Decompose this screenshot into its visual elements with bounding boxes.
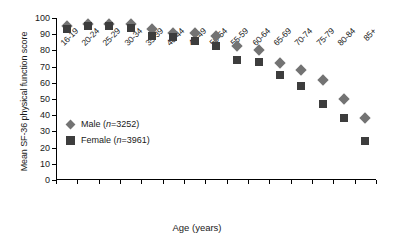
x-tick — [141, 180, 142, 184]
data-point-female — [319, 100, 327, 108]
y-tick — [52, 99, 56, 100]
x-tick — [99, 180, 100, 184]
data-point-female — [63, 25, 71, 33]
x-tick — [355, 180, 356, 184]
x-tick — [205, 180, 206, 184]
data-point-female — [340, 114, 348, 122]
x-axis-line — [56, 179, 376, 180]
y-tick — [52, 83, 56, 84]
x-axis-title: Age (years) — [0, 222, 394, 233]
y-tick — [52, 34, 56, 35]
y-tick-label: 30 — [40, 126, 50, 136]
x-tick — [56, 180, 57, 184]
legend-label-female: Female (n=3961) — [81, 135, 150, 145]
data-point-male — [360, 113, 371, 124]
x-tick — [120, 180, 121, 184]
plot-area: 0102030405060708090100 16-1920-2425-2930… — [56, 18, 376, 180]
x-tick-label: 65-69 — [271, 26, 293, 48]
data-point-female — [191, 37, 199, 45]
chart-figure: Mean SF-36 physical function score 01020… — [0, 0, 394, 242]
x-tick — [376, 180, 377, 184]
y-tick-label: 60 — [40, 78, 50, 88]
data-point-male — [253, 45, 264, 56]
y-axis-title: Mean SF-36 physical function score — [19, 22, 30, 182]
data-point-female — [148, 32, 156, 40]
x-tick — [227, 180, 228, 184]
y-tick — [52, 67, 56, 68]
x-tick — [312, 180, 313, 184]
data-point-female — [169, 33, 177, 41]
data-point-male — [274, 58, 285, 69]
diamond-marker-icon — [66, 119, 76, 129]
x-tick — [269, 180, 270, 184]
y-tick-label: 100 — [35, 13, 50, 23]
x-tick — [333, 180, 334, 184]
data-point-male — [317, 74, 328, 85]
x-tick — [291, 180, 292, 184]
data-point-female — [255, 58, 263, 66]
y-tick-label: 80 — [40, 45, 50, 55]
data-point-male — [296, 64, 307, 75]
data-point-female — [127, 24, 135, 32]
y-tick — [52, 18, 56, 19]
y-tick-label: 70 — [40, 62, 50, 72]
legend-item-male: Male (n=3252) — [66, 116, 150, 132]
y-tick-label: 20 — [40, 143, 50, 153]
x-tick-label: 60-64 — [250, 26, 272, 48]
data-point-female — [105, 22, 113, 30]
y-axis-line — [56, 18, 57, 180]
y-tick — [52, 131, 56, 132]
y-tick — [52, 115, 56, 116]
y-tick-label: 40 — [40, 110, 50, 120]
data-point-male — [338, 93, 349, 104]
data-point-female — [212, 42, 220, 50]
data-point-female — [233, 56, 241, 64]
y-tick — [52, 148, 56, 149]
y-tick-label: 10 — [40, 159, 50, 169]
x-tick — [184, 180, 185, 184]
y-tick — [52, 164, 56, 165]
x-tick-label: 75-79 — [314, 26, 336, 48]
data-point-female — [84, 22, 92, 30]
square-marker-icon — [66, 136, 75, 145]
y-tick-label: 90 — [40, 29, 50, 39]
data-point-female — [297, 82, 305, 90]
legend-label-male: Male (n=3252) — [81, 119, 139, 129]
x-tick — [77, 180, 78, 184]
y-tick-label: 0 — [45, 175, 50, 185]
legend-item-female: Female (n=3961) — [66, 132, 150, 148]
x-tick-label: 70-74 — [293, 26, 315, 48]
data-point-female — [361, 137, 369, 145]
y-tick-label: 50 — [40, 94, 50, 104]
data-point-female — [276, 71, 284, 79]
chart-legend: Male (n=3252) Female (n=3961) — [66, 116, 150, 148]
x-tick — [163, 180, 164, 184]
y-tick — [52, 50, 56, 51]
x-tick-label: 80-84 — [335, 26, 357, 48]
x-tick-label: 85+ — [362, 26, 379, 43]
x-tick — [248, 180, 249, 184]
